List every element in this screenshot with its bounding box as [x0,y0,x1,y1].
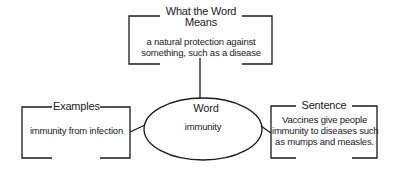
right-box-title: Sentence [297,100,351,111]
top-box-text-line1: a natural protection against [130,36,272,47]
center-word-value: immunity [173,121,233,132]
left-box-text: immunity from infection [23,125,130,136]
center-word-label: Word [173,103,239,114]
right-box-text-line1: Vaccines give people [272,114,377,125]
right-box-text-line2: immunity to diseases such [272,125,377,136]
connector-left [130,125,145,132]
left-box-title: Examples [53,101,99,112]
top-box-title-line2: Means [161,17,241,28]
top-box-text-line2: something, such as a disease [130,47,272,58]
right-box-text-line3: as mumps and measles. [272,136,377,147]
